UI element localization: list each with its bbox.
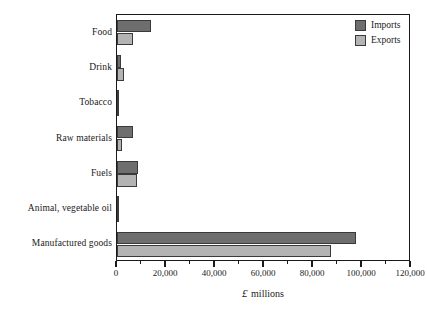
- x-tick-minor: [287, 261, 288, 264]
- bar-group: [117, 156, 409, 191]
- legend-label-exports: Exports: [371, 35, 401, 46]
- y-axis-label-food: Food: [92, 27, 112, 37]
- bar-group: [117, 191, 409, 226]
- bar-imports-food: [117, 20, 151, 33]
- y-axis-label-raw-materials: Raw materials: [56, 133, 112, 143]
- bar-exports-drink: [117, 68, 124, 81]
- bar-imports-manufactured-goods: [117, 232, 356, 245]
- x-tick-label: 60,000: [251, 268, 276, 278]
- legend: Imports Exports: [352, 16, 404, 50]
- x-tick-minor: [336, 261, 337, 264]
- x-tick-label: 100,000: [346, 268, 375, 278]
- legend-swatch-exports-icon: [355, 35, 366, 46]
- x-tick-label: 80,000: [300, 268, 325, 278]
- bar-exports-fuels: [117, 174, 137, 187]
- bar-exports-raw-materials: [117, 139, 122, 152]
- bar-group: [117, 50, 409, 85]
- bar-imports-drink: [117, 55, 121, 68]
- x-axis-title: £ millions: [116, 287, 410, 299]
- bar-exports-food: [117, 33, 133, 46]
- bar-imports-tobacco: [117, 90, 119, 103]
- x-tick-label: 0: [114, 268, 119, 278]
- legend-label-imports: Imports: [371, 20, 401, 31]
- x-tick-minor: [385, 261, 386, 264]
- plot-area: [116, 14, 410, 261]
- y-axis-label-animal-vegetable-oil: Animal, vegetable oil: [28, 203, 112, 213]
- legend-swatch-imports-icon: [355, 20, 366, 31]
- x-tick-major: [164, 261, 165, 267]
- bar-group: [117, 227, 409, 262]
- bar-imports-raw-materials: [117, 126, 133, 139]
- bars-container: [117, 15, 409, 260]
- x-tick-major: [409, 261, 410, 267]
- x-tick-label: 20,000: [153, 268, 178, 278]
- x-tick-major: [213, 261, 214, 267]
- y-axis-label-tobacco: Tobacco: [79, 97, 112, 107]
- x-tick-major: [115, 261, 116, 267]
- x-tick-major: [262, 261, 263, 267]
- bar-chart: FoodDrinkTobaccoRaw materialsFuelsAnimal…: [0, 0, 427, 312]
- x-tick-minor: [140, 261, 141, 264]
- x-tick-major: [360, 261, 361, 267]
- x-tick-major: [311, 261, 312, 267]
- bar-group: [117, 121, 409, 156]
- y-axis-label-fuels: Fuels: [91, 168, 112, 178]
- y-axis-label-manufactured-goods: Manufactured goods: [32, 238, 112, 248]
- x-tick-minor: [189, 261, 190, 264]
- bar-imports-fuels: [117, 161, 138, 174]
- bar-exports-animal-vegetable-oil: [117, 209, 119, 222]
- x-axis-title-text: millions: [249, 288, 284, 299]
- bar-group: [117, 86, 409, 121]
- x-tick-label: 120,000: [395, 268, 424, 278]
- x-tick-label: 40,000: [202, 268, 227, 278]
- x-tick-minor: [238, 261, 239, 264]
- legend-item-imports: Imports: [355, 18, 401, 33]
- legend-item-exports: Exports: [355, 33, 401, 48]
- bar-imports-animal-vegetable-oil: [117, 196, 119, 209]
- y-axis-label-drink: Drink: [89, 62, 112, 72]
- bar-exports-manufactured-goods: [117, 245, 331, 258]
- bar-exports-tobacco: [117, 103, 119, 116]
